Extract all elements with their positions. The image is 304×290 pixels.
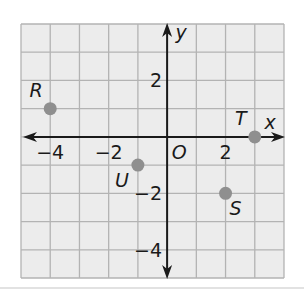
y-tick-label: −2	[134, 182, 162, 204]
point-label-t: T	[235, 107, 248, 129]
x-tick-label: −2	[95, 141, 123, 163]
x-axis-label: x	[263, 111, 276, 133]
point-label-u: U	[115, 169, 129, 191]
point-t	[248, 130, 261, 143]
point-label-s: S	[230, 197, 242, 219]
y-axis-label: y	[174, 21, 187, 43]
x-tick-label: −4	[36, 141, 64, 163]
point-u	[131, 159, 144, 172]
point-label-r: R	[30, 79, 43, 101]
coordinate-plane: xyO−4−222−2−4 RTUS	[0, 0, 304, 290]
x-tick-label: 2	[220, 141, 232, 163]
origin-label: O	[172, 141, 187, 163]
point-r	[44, 102, 57, 115]
y-tick-label: 2	[150, 69, 162, 91]
y-tick-label: −4	[134, 239, 162, 261]
